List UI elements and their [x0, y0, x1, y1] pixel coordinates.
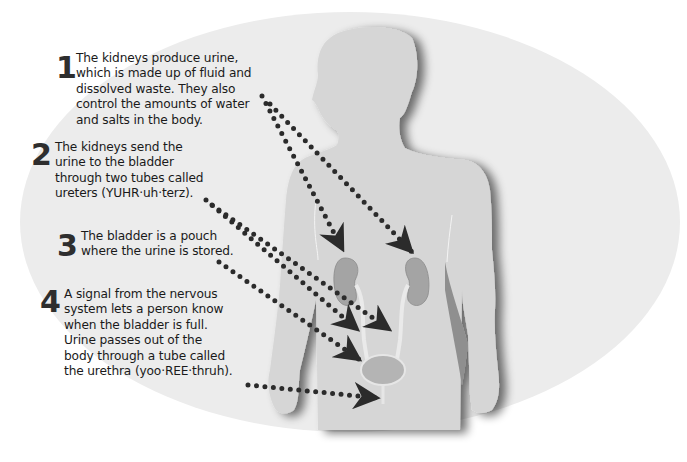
step-text: The bladder is a pouch where the urine i… [81, 229, 234, 260]
step-1: 1 The kidneys produce urine, which is ma… [56, 51, 251, 128]
step-3: 3 The bladder is a pouch where the urine… [57, 229, 234, 260]
bladder [361, 355, 405, 385]
step-2: 2 The kidneys send the urine to the blad… [31, 140, 203, 202]
step-number: 1 [56, 53, 77, 83]
step-number: 4 [40, 287, 61, 317]
step-text: The kidneys send the urine to the bladde… [55, 140, 203, 202]
step-text: A signal from the nervous system lets a … [64, 287, 233, 379]
urinary-system-diagram: 1 The kidneys produce urine, which is ma… [0, 0, 687, 462]
step-number: 3 [57, 231, 78, 261]
step-4: 4 A signal from the nervous system lets … [40, 287, 233, 379]
step-number: 2 [31, 140, 52, 170]
step-text: The kidneys produce urine, which is made… [76, 51, 251, 128]
